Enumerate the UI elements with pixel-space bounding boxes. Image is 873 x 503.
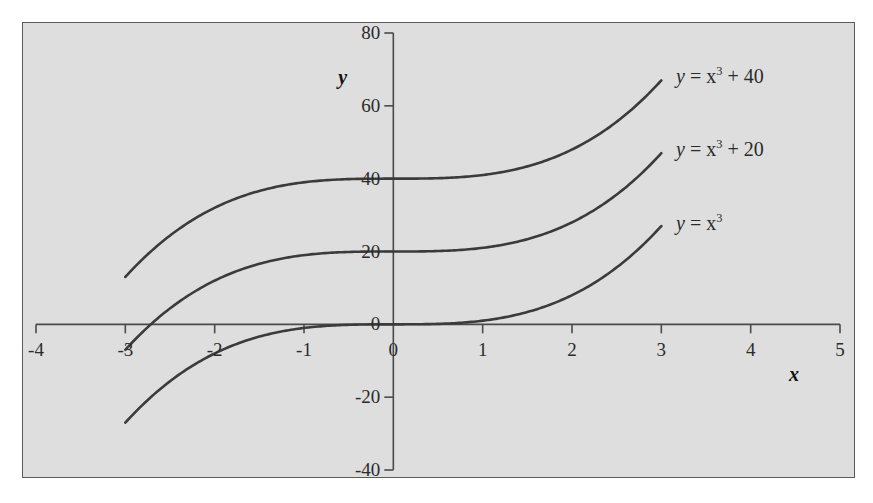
x-tick-label--3: -3 xyxy=(105,340,145,359)
y-tick-label-20: 20 xyxy=(334,242,380,261)
y-tick-label--40: -40 xyxy=(334,460,380,479)
x-tick-label-0: 0 xyxy=(373,340,413,359)
x-tick-label--4: -4 xyxy=(16,340,56,359)
x-tick-label--2: -2 xyxy=(195,340,235,359)
y-axis-name: y xyxy=(338,67,347,87)
figure-container: -4 -3 -2 -1 0 1 2 3 4 5 80 60 40 20 0 -2… xyxy=(0,0,873,503)
x-tick-label-5: 5 xyxy=(820,340,860,359)
x-tick-label-4: 4 xyxy=(731,340,771,359)
y-tick-label-40: 40 xyxy=(334,169,380,188)
x-tick-label--1: -1 xyxy=(284,340,324,359)
x-axis-name: x xyxy=(789,364,799,384)
curve-label-x3-plus-20: y = x3 + 20 xyxy=(676,139,764,159)
y-tick-label-80: 80 xyxy=(334,23,380,42)
x-tick-label-2: 2 xyxy=(552,340,592,359)
x-tick-label-3: 3 xyxy=(641,340,681,359)
curve-label-x3: y = x3 xyxy=(676,213,722,233)
y-tick-label-0: 0 xyxy=(334,314,380,333)
x-tick-label-1: 1 xyxy=(463,340,503,359)
y-tick-label--20: -20 xyxy=(334,387,380,406)
curve-label-x3-plus-40: y = x3 + 40 xyxy=(676,66,764,86)
y-tick-label-60: 60 xyxy=(334,96,380,115)
